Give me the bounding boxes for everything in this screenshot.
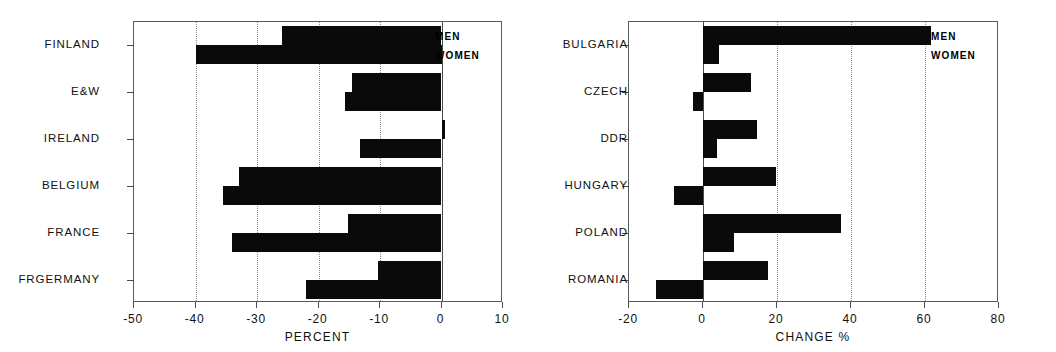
gridline [777,22,778,301]
x-axis-tick-label: -20 [308,312,328,326]
x-axis-tick-label: 20 [769,312,784,326]
x-axis-tick-label: -20 [618,312,638,326]
category-label: ROMANIA [568,273,628,285]
x-axis-tick [924,302,925,308]
category-label: POLAND [575,226,628,238]
x-axis-tick-label: 60 [917,312,932,326]
category-label: CZECH [584,85,628,97]
bar-women [703,233,734,252]
x-axis-tick [195,302,196,308]
bar-women [232,233,441,252]
x-axis-tick [998,302,999,308]
x-axis-tick-label: -10 [369,312,389,326]
bar-men [378,261,441,280]
x-axis-tick-label: -30 [246,312,266,326]
bar-men [703,261,768,280]
bar-women [656,280,703,299]
x-axis-tick [702,302,703,308]
bar-men [282,26,442,45]
x-axis-tick-label: -50 [123,312,143,326]
legend-label-women: WOMEN [931,49,976,60]
category-label: E&W [71,85,100,97]
plot-area-left: MENWOMEN [133,21,502,302]
x-axis-tick [502,302,503,308]
chart-panel-left: MENWOMENFINLANDE&WIRELANDBELGIUMFRANCEFR… [0,0,528,352]
bar-men [703,26,931,45]
chart-panel-right: MENWOMENBULGARIACZECHDDRHUNGARYPOLANDROM… [528,0,1056,352]
bar-men [442,120,446,139]
category-label: HUNGARY [564,179,628,191]
gridline [925,22,926,301]
x-axis-tick-label: 0 [698,312,705,326]
x-axis-tick [628,302,629,308]
category-label: BULGARIA [563,38,628,50]
legend-label-men: MEN [435,30,461,41]
bar-women [345,92,442,111]
category-label: FINLAND [44,38,100,50]
legend-label-women: WOMEN [435,49,480,60]
figure-root: MENWOMENFINLANDE&WIRELANDBELGIUMFRANCEFR… [0,0,1056,352]
x-axis-tick [256,302,257,308]
gridline [851,22,852,301]
zero-line [442,22,443,301]
y-axis-tick [127,45,134,46]
category-label: BELGIUM [42,179,100,191]
x-axis-tick-label: 10 [495,312,510,326]
category-label: DDR [600,132,628,144]
bar-men [703,167,776,186]
x-axis-tick [133,302,134,308]
plot-area-right: MENWOMEN [628,21,998,302]
x-axis-tick [850,302,851,308]
bar-women [703,45,719,64]
bar-men [703,120,757,139]
bar-women [703,139,717,158]
x-axis-title: CHANGE % [776,330,851,344]
bar-men [348,214,441,233]
y-axis-tick [127,233,134,234]
bar-women [223,186,441,205]
x-axis-tick-label: 0 [437,312,444,326]
x-axis-tick [318,302,319,308]
bar-women [360,139,442,158]
x-axis-tick-label: 80 [991,312,1006,326]
bar-women [306,280,442,299]
bar-women [693,92,703,111]
x-axis-tick [441,302,442,308]
x-axis-tick-label: 40 [843,312,858,326]
bar-women [196,45,442,64]
x-axis-tick [776,302,777,308]
x-axis-tick [379,302,380,308]
bar-men [239,167,442,186]
legend-label-men: MEN [931,30,957,41]
y-axis-tick [127,139,134,140]
category-label: FRANCE [47,226,100,238]
y-axis-tick [127,92,134,93]
x-axis-title: PERCENT [285,330,351,344]
bar-men [703,214,841,233]
bar-women [674,186,703,205]
y-axis-tick [127,280,134,281]
category-label: IRELAND [44,132,100,144]
bar-men [352,73,442,92]
y-axis-tick [127,186,134,187]
x-axis-tick-label: -40 [185,312,205,326]
bar-men [703,73,751,92]
category-label: FRGERMANY [18,273,100,285]
